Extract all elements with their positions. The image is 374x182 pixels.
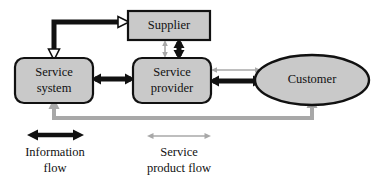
node-service-provider[interactable]: Service provider bbox=[133, 58, 211, 103]
service-system-label-line2: system bbox=[37, 81, 72, 95]
information-flow-label-line1: Information bbox=[25, 145, 85, 159]
connection-system-to-provider bbox=[91, 74, 135, 85]
diagram-canvas: Supplier Service system Service provider… bbox=[0, 0, 374, 182]
supplier-label: Supplier bbox=[148, 18, 191, 32]
information-flow-label-line2: flow bbox=[44, 161, 67, 175]
information-flow-arrowhead-right bbox=[73, 130, 84, 141]
service-product-flow-label-line1: Service bbox=[160, 145, 198, 159]
node-supplier[interactable]: Supplier bbox=[128, 11, 210, 40]
connection-supplier-to-provider-product bbox=[162, 40, 168, 58]
node-service-system[interactable]: Service system bbox=[15, 58, 93, 103]
service-system-label-line1: Service bbox=[35, 65, 73, 79]
information-flow-arrowhead-left bbox=[27, 130, 38, 141]
service-product-flow-label-line2: product flow bbox=[147, 161, 211, 175]
connection-provider-to-customer-product bbox=[211, 67, 261, 73]
node-customer[interactable]: Customer bbox=[255, 55, 369, 105]
customer-label: Customer bbox=[288, 72, 337, 86]
legend-information-flow: Information flow bbox=[25, 130, 85, 175]
service-provider-label-line1: Service bbox=[153, 65, 191, 79]
service-provider-label-line2: provider bbox=[151, 81, 194, 95]
connection-system-to-supplier bbox=[49, 17, 130, 61]
service-product-flow-arrowhead-right bbox=[205, 133, 212, 139]
legend-service-product-flow: Service product flow bbox=[147, 133, 211, 175]
connection-supplier-to-provider-information bbox=[174, 38, 185, 60]
service-product-flow-arrowhead-left bbox=[147, 133, 154, 139]
service-network-diagram: Supplier Service system Service provider… bbox=[0, 0, 374, 182]
